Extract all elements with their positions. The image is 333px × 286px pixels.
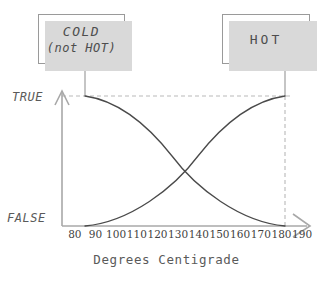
callout-box-cold[interactable]: COLD (not HOT): [38, 14, 125, 64]
x-axis-title: Degrees Centigrade: [0, 252, 333, 267]
x-axis-tick-labels: 8090100110120130140150160170180190: [62, 228, 310, 242]
x-tick-label: 150: [209, 228, 229, 240]
x-tick-label: 100: [106, 228, 126, 240]
x-tick-label: 110: [127, 228, 147, 240]
callout-cold-label-secondary: (not HOT): [47, 40, 117, 56]
y-axis-label-true: TRUE: [12, 90, 43, 104]
y-axis-label-false: FALSE: [7, 211, 46, 225]
x-tick-label: 140: [189, 228, 209, 240]
fuzzy-membership-figure: COLD (not HOT) HOT TRUE FALSE 8090100110…: [0, 0, 333, 286]
callout-box-hot[interactable]: HOT: [222, 14, 310, 64]
x-tick-label: 80: [68, 228, 81, 240]
callout-hot-label-primary: HOT: [250, 31, 282, 48]
x-tick-label: 90: [89, 228, 102, 240]
x-tick-label: 130: [168, 228, 188, 240]
x-tick-label: 120: [147, 228, 167, 240]
x-tick-label: 190: [292, 228, 312, 240]
curve-hot: [85, 96, 285, 226]
x-tick-label: 180: [271, 228, 291, 240]
curve-cold: [85, 96, 285, 226]
x-tick-label: 160: [230, 228, 250, 240]
x-tick-label: 170: [251, 228, 271, 240]
callout-cold-label-primary: COLD: [63, 23, 100, 40]
